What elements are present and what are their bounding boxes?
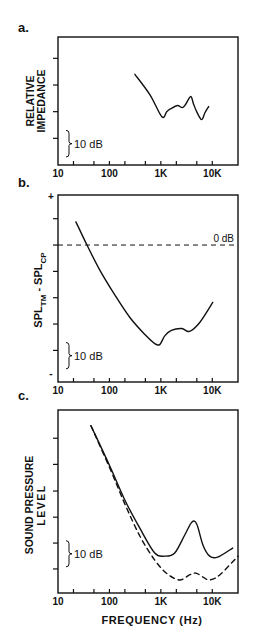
panel-b-y-bottom-label: - — [49, 368, 52, 379]
panel-a-series-impedance-line — [135, 74, 209, 119]
panel-b-y-top-label: + — [48, 191, 54, 202]
panel-c-x-tick-label: 1K — [154, 596, 168, 607]
panel-b-scale-label: 10 dB — [74, 350, 103, 362]
panel-a-series — [134, 74, 209, 121]
panel-c-frame — [58, 410, 238, 593]
panel-c-series — [90, 425, 238, 580]
panel-c-x-tick-label: 10 — [52, 596, 64, 607]
panel-c-xlabel: FREQUENCY (Hz) — [101, 614, 202, 626]
panel-b-ylabel: SPLTM - SPLCP — [32, 252, 48, 328]
panel-b: b. SPLTM - SPLCP + - 101001K10K 0 dB 10 … — [18, 175, 238, 396]
panel-b-label: b. — [18, 175, 30, 190]
panel-c-ylabel-line1: SOUND PRESSURE — [23, 456, 35, 555]
panel-b-scale-bar: 10 dB — [66, 342, 103, 368]
panel-a-ylabel-line2: IMPEDANCE — [35, 69, 47, 132]
panel-c-ylabel-line2: LEVEL — [35, 484, 47, 525]
panel-c-scale-bar: 10 dB — [66, 541, 103, 567]
panel-a-x-tick-label: 100 — [101, 168, 118, 179]
panel-b-scale-brace — [66, 342, 72, 368]
panel-c-x-tick-labels: 101001K10K — [52, 596, 222, 607]
panel-b-reference-label: 0 dB — [213, 233, 234, 244]
panel-a-x-tick-labels: 101001K10K — [52, 168, 222, 179]
panel-b-x-tick-labels: 101001K10K — [52, 385, 222, 396]
panel-a: a. RELATIVE IMPEDANCE 101001K10K 10 dB — [18, 20, 238, 179]
panel-b-x-tick-label: 1K — [154, 385, 168, 396]
panel-b-series-difference-line — [76, 222, 213, 345]
panel-a-scale-brace — [66, 130, 72, 157]
panel-c-x-tick-label: 10K — [203, 596, 222, 607]
panel-c-label: c. — [18, 388, 29, 403]
figure: a. RELATIVE IMPEDANCE 101001K10K 10 dB b… — [0, 0, 254, 637]
panel-b-x-tick-label: 10K — [203, 385, 222, 396]
panel-a-x-tick-label: 1K — [154, 168, 168, 179]
panel-a-scale-label: 10 dB — [74, 138, 103, 150]
panel-a-scale-bar: 10 dB — [66, 130, 103, 157]
panel-b-y-ticks — [53, 219, 58, 351]
panel-b-x-tick-label: 100 — [101, 385, 118, 396]
panel-b-x-tick-label: 10 — [52, 385, 64, 396]
panel-b-reference-line: 0 dB — [58, 233, 238, 245]
panel-c-x-tick-label: 100 — [101, 596, 118, 607]
panel-c-scale-label: 10 dB — [74, 548, 103, 560]
panel-c: c. SOUND PRESSURE LEVEL FREQUENCY (Hz) 1… — [18, 388, 239, 626]
panel-a-y-ticks — [53, 58, 58, 138]
panel-a-x-tick-label: 10 — [52, 168, 64, 179]
panel-c-scale-brace — [66, 541, 72, 567]
panel-a-x-tick-label: 10K — [203, 168, 222, 179]
panel-c-y-ticks — [53, 438, 58, 569]
panel-b-series — [75, 221, 213, 345]
panel-a-label: a. — [18, 20, 29, 35]
panel-c-series-solid-line — [91, 426, 233, 558]
